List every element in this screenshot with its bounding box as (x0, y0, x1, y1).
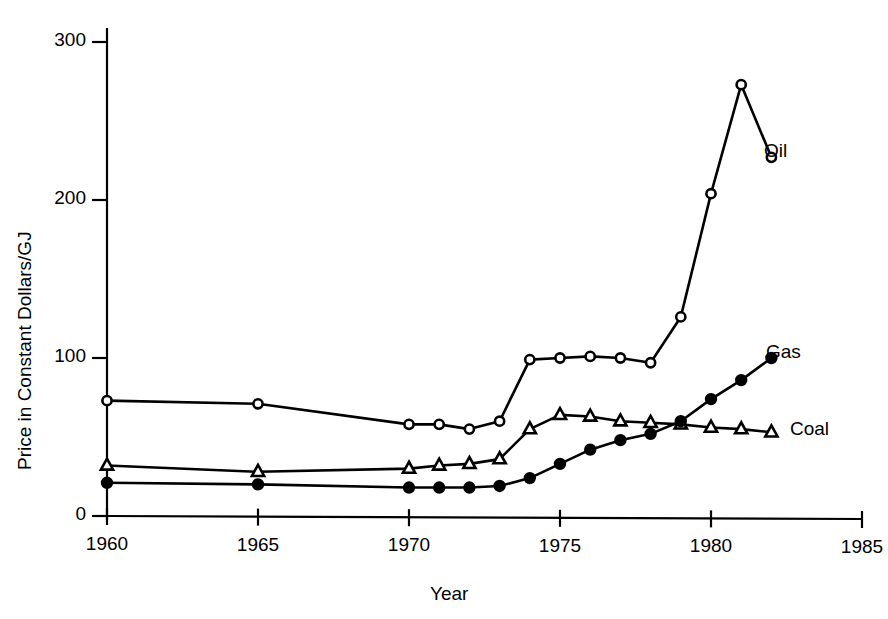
series-group (101, 80, 778, 493)
data-point-marker (253, 479, 263, 489)
data-point-marker (676, 416, 686, 426)
x-tick-label: 1980 (671, 535, 751, 557)
data-point-marker (676, 312, 685, 321)
y-tick-label: 0 (20, 503, 86, 525)
data-point-marker (495, 417, 504, 426)
x-tick-label: 1985 (822, 536, 888, 558)
data-point-marker (616, 353, 625, 362)
data-point-marker (555, 459, 565, 469)
data-point-marker (463, 457, 475, 468)
data-point-marker (706, 189, 715, 198)
data-point-marker (584, 410, 596, 421)
y-tick-label: 200 (20, 187, 86, 209)
data-point-marker (765, 425, 777, 436)
data-point-marker (706, 394, 716, 404)
x-tick-label: 1960 (67, 533, 147, 555)
data-point-marker (585, 444, 595, 454)
data-point-marker (736, 375, 746, 385)
x-tick-label: 1965 (218, 534, 298, 556)
data-point-marker (524, 422, 536, 433)
data-point-marker (554, 408, 566, 419)
data-point-marker (614, 414, 626, 425)
chart-container: Price in Constant Dollars/GJ Year 010020… (0, 0, 888, 619)
data-point-marker (102, 396, 111, 405)
series-label-gas: Gas (766, 341, 801, 363)
data-point-marker (464, 482, 474, 492)
data-point-marker (735, 422, 747, 433)
y-tick-label: 100 (20, 345, 86, 367)
data-point-marker (404, 420, 413, 429)
data-point-marker (252, 465, 264, 476)
x-tick-label: 1975 (520, 535, 600, 557)
data-point-marker (102, 478, 112, 488)
data-point-marker (645, 416, 657, 427)
series-label-coal: Coal (790, 418, 829, 440)
data-point-marker (435, 420, 444, 429)
data-point-marker (465, 425, 474, 434)
y-tick-label: 300 (20, 29, 86, 51)
series-line-oil (107, 85, 771, 429)
x-tick-label: 1970 (369, 534, 449, 556)
data-point-marker (645, 429, 655, 439)
data-point-marker (525, 473, 535, 483)
data-point-marker (403, 462, 415, 473)
data-point-marker (433, 459, 445, 470)
data-point-marker (253, 399, 262, 408)
data-point-marker (555, 353, 564, 362)
data-point-marker (525, 355, 534, 364)
series-label-oil: Oil (764, 140, 787, 162)
chart-plot-area (0, 0, 888, 619)
data-point-marker (494, 481, 504, 491)
data-point-marker (101, 459, 113, 470)
data-point-marker (646, 358, 655, 367)
x-axis-label: Year (430, 583, 468, 605)
y-tick-group (92, 42, 107, 516)
data-point-marker (615, 435, 625, 445)
data-point-marker (434, 482, 444, 492)
data-point-marker (737, 80, 746, 89)
data-point-marker (705, 421, 717, 432)
series-oil (102, 80, 776, 434)
data-point-marker (586, 352, 595, 361)
data-point-marker (404, 482, 414, 492)
x-axis-line (107, 516, 862, 519)
